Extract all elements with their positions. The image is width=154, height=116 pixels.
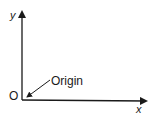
origin-callout-label: Origin [51, 75, 83, 87]
axes-diagram [0, 0, 154, 116]
y-axis-label: y [10, 10, 16, 21]
x-axis-label: x [136, 104, 142, 115]
origin-letter: O [9, 90, 18, 102]
x-axis [22, 100, 146, 101]
origin-pointer-arrow [27, 80, 50, 97]
